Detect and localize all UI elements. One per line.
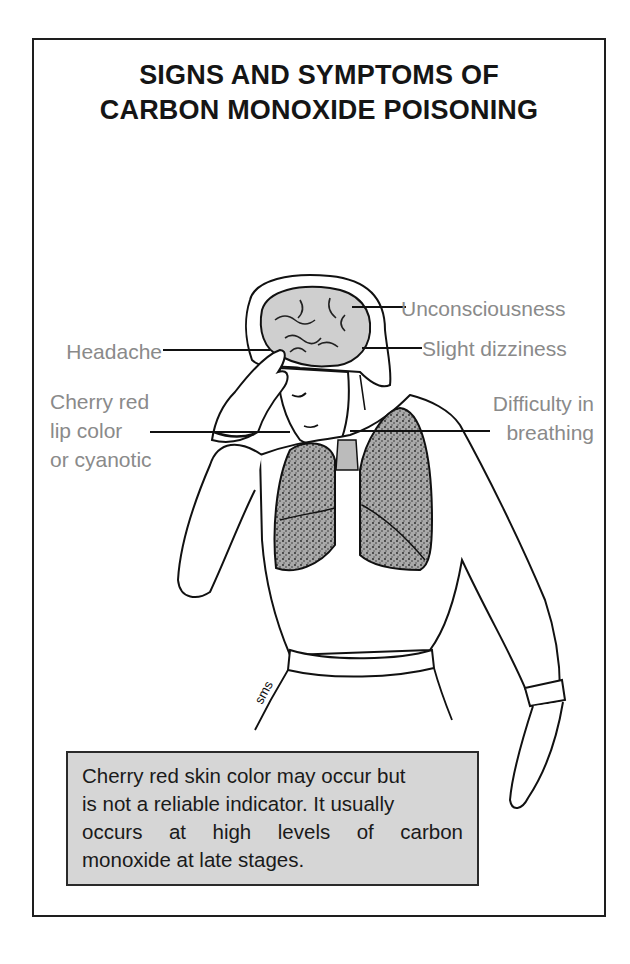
- hand-shape: [212, 350, 288, 442]
- note-line-4: monoxide at late stages.: [82, 846, 463, 874]
- note-box: Cherry red skin color may occur but is n…: [66, 751, 479, 886]
- label-dizziness: Slight dizziness: [422, 334, 567, 363]
- note-line-3: occurs at high levels of carbon: [82, 818, 463, 846]
- label-lip-color: Cherry red lip color or cyanotic: [50, 387, 152, 474]
- label-headache: Headache: [52, 337, 162, 366]
- artist-signature: sms: [251, 678, 276, 707]
- label-unconsciousness: Unconsciousness: [401, 294, 566, 323]
- face-shape: [279, 368, 349, 445]
- label-breathing: Difficulty in breathing: [440, 389, 594, 447]
- note-line-1: Cherry red skin color may occur but: [82, 762, 463, 790]
- raised-arm: [178, 445, 262, 597]
- trachea: [336, 440, 358, 470]
- lowered-hand: [510, 702, 563, 808]
- note-line-2: is not a reliable indicator. It usually: [82, 790, 463, 818]
